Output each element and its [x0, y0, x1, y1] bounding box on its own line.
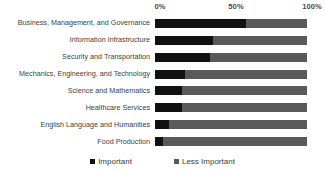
bar-track [155, 36, 307, 45]
bar-track [155, 137, 307, 146]
bar-segment [155, 103, 182, 112]
category-label: Security and Transportation [0, 53, 155, 61]
chart-row: Security and Transportation [0, 49, 325, 66]
chart-row: Food Production [0, 133, 325, 150]
bar-track [155, 53, 307, 62]
bar-segment [155, 53, 210, 62]
x-axis-tick-label: 100% [302, 2, 322, 11]
bar-segment [155, 86, 182, 95]
chart-row: Information Infrastructure [0, 32, 325, 49]
bar-segment [155, 36, 213, 45]
bar-track [155, 70, 307, 79]
bar-track [155, 86, 307, 95]
bar-segment [213, 36, 307, 45]
chart-legend: ImportantLess Important [0, 152, 325, 170]
x-axis-tick-label: 50% [228, 2, 243, 11]
bar-segment [210, 53, 307, 62]
category-label: Mechanics, Engineering, and Technology [0, 70, 155, 78]
bar-track [155, 103, 307, 112]
bar-track [155, 120, 307, 129]
legend-label: Important [98, 157, 132, 166]
legend-item[interactable]: Less Important [174, 157, 235, 166]
bar-segment [246, 19, 307, 28]
legend-swatch-icon [174, 159, 179, 164]
legend-label: Less Important [182, 157, 235, 166]
bar-segment [155, 120, 169, 129]
bar-segment [182, 86, 307, 95]
chart-row: Science and Mathematics [0, 83, 325, 100]
bar-segment [155, 70, 185, 79]
x-axis-tick-label: 0% [154, 2, 165, 11]
plot-area: Business, Management, and GovernanceInfo… [0, 15, 325, 150]
stacked-bar-chart: 0%50%100% Business, Management, and Gove… [0, 0, 325, 174]
bar-segment [185, 70, 307, 79]
bar-segment [155, 19, 246, 28]
category-label: Healthcare Services [0, 104, 155, 112]
category-label: English Language and Humanities [0, 121, 155, 129]
chart-row: Healthcare Services [0, 99, 325, 116]
chart-row: English Language and Humanities [0, 116, 325, 133]
legend-item[interactable]: Important [90, 157, 132, 166]
bar-track [155, 19, 307, 28]
legend-swatch-icon [90, 159, 95, 164]
chart-row: Business, Management, and Governance [0, 15, 325, 32]
category-label: Business, Management, and Governance [0, 19, 155, 27]
bar-segment [155, 137, 163, 146]
bar-segment [169, 120, 307, 129]
x-axis-ticks: 0%50%100% [160, 2, 312, 14]
category-label: Science and Mathematics [0, 87, 155, 95]
bar-segment [182, 103, 307, 112]
chart-row: Mechanics, Engineering, and Technology [0, 66, 325, 83]
category-label: Information Infrastructure [0, 36, 155, 44]
category-label: Food Production [0, 138, 155, 146]
bar-segment [163, 137, 307, 146]
